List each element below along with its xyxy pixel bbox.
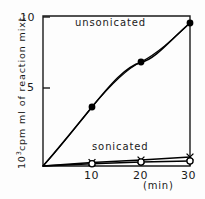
y-axis-ticks [43, 17, 50, 88]
y-axis-label-exponent: 3 [15, 151, 23, 155]
annotation-unsonicated: unsonicated [75, 18, 146, 28]
x-tick-label-10: 10 [84, 170, 99, 181]
chart-figure: 103cpm ml of reaction mixt. 10 5 10 20 3… [0, 0, 205, 199]
plot-canvas [0, 0, 205, 199]
y-axis-label-rest: cpm ml of reaction mixt. [16, 13, 27, 151]
x-tick-label-30: 30 [181, 170, 196, 181]
series-sonicated-cross [43, 154, 193, 166]
annotation-sonicated: sonicated [92, 142, 149, 152]
x-axis-label: (min) [143, 181, 174, 191]
y-axis-label: 103cpm ml of reaction mixt. [15, 19, 27, 169]
y-tick-label-5: 5 [27, 82, 35, 93]
y-axis-label-prefix: 10 [16, 155, 27, 169]
y-tick-label-10: 10 [20, 12, 35, 23]
